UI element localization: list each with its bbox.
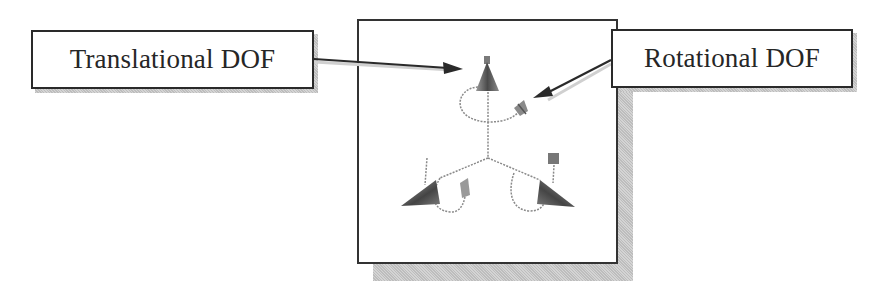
dof-diagram: Translational DOF Rotational DOF	[0, 0, 879, 288]
translational-dof-text: Translational DOF	[70, 44, 276, 75]
translational-dof-label: Translational DOF	[31, 30, 314, 89]
left-cone-icon	[401, 180, 440, 206]
cone-arrow-icon	[476, 56, 499, 91]
rotational-dof-text: Rotational DOF	[644, 43, 820, 74]
translational-pointer-arrow	[314, 59, 463, 74]
right-cone-icon	[537, 153, 575, 207]
rotational-pointer-arrow	[533, 60, 611, 100]
left-rotation-handle-icon	[460, 178, 470, 198]
rotational-dof-label: Rotational DOF	[611, 29, 853, 88]
triad-axes	[425, 87, 554, 212]
